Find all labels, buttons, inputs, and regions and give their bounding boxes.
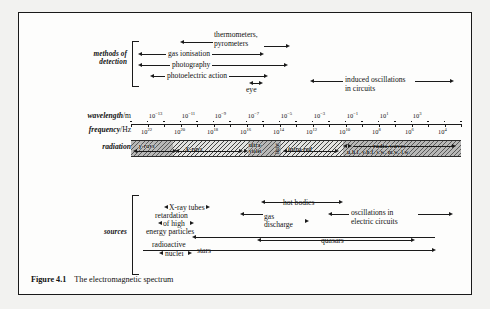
sources-bracket	[132, 195, 139, 275]
wavelength-tick	[460, 121, 462, 123]
gamma-left-arrow	[133, 149, 137, 153]
wavelength-tick-label: 101	[380, 111, 389, 119]
infrared-right-arrow	[335, 149, 339, 153]
gas-discharge-left-line	[243, 214, 263, 215]
spectrum-band: γ-rays X-rays ultra- violet light infra-…	[131, 140, 461, 157]
hot-bodies-left-arrow	[261, 200, 265, 204]
wavelength-tick	[213, 121, 215, 123]
frequency-tick	[329, 124, 330, 127]
oscillations-left-arrow	[328, 212, 332, 216]
wavelength-tick	[196, 121, 198, 123]
frequency-tick-label: 1016	[240, 127, 251, 135]
figure-panel: methods of detection thermometers, pyrom…	[18, 12, 472, 295]
induced-left-arrow	[310, 79, 314, 83]
wavelength-tick-label: 10−7	[248, 111, 259, 119]
wavelength-tick	[345, 121, 347, 123]
thermometers-left-arrow	[180, 40, 184, 44]
radio-left-arrow-2	[348, 144, 352, 148]
thermometers-right-arrow	[286, 44, 290, 48]
quasars-right-arrow	[411, 238, 415, 242]
nuclei-right-arrow	[188, 251, 192, 255]
detection-item-gas-ionisation: gas ionisation	[166, 49, 212, 58]
photoelectric-right-arrow	[264, 74, 268, 78]
gas-discharge-right-arrow	[305, 219, 309, 223]
wavelength-tick	[328, 121, 330, 123]
frequency-tick-label: 1018	[207, 127, 218, 135]
wavelength-tick	[312, 121, 314, 123]
xray-tubes-left-arrow	[164, 205, 168, 209]
wavelength-tick	[130, 121, 132, 123]
frequency-tick	[164, 124, 165, 127]
nuclei-left-arrow	[159, 251, 163, 255]
frequency-tick	[131, 124, 132, 127]
frequency-axis-label: frequency/Hz	[55, 125, 131, 134]
frequency-tick-label: 106	[405, 127, 414, 135]
photography-right-arrow	[284, 63, 288, 67]
wavelength-tick	[147, 121, 149, 123]
wavelength-tick	[378, 121, 380, 123]
frequency-tick	[395, 124, 396, 127]
detection-item-photography: photography	[170, 60, 212, 69]
frequency-tick	[197, 124, 198, 127]
radioactive-pointer-arrow	[192, 235, 196, 239]
frequency-tick-label: 1010	[339, 127, 350, 135]
wavelength-tick	[262, 121, 264, 123]
radio-right-arrow	[452, 144, 456, 148]
sources-item-radioactive: radioactive	[152, 240, 186, 249]
wavelength-tick-label: 10−5	[281, 111, 292, 119]
gas-discharge-left-arrow	[240, 212, 244, 216]
sources-item-energy-particles: energy particles	[146, 227, 194, 236]
wavelength-tick-label: 10−9	[215, 111, 226, 119]
frequency-tick	[230, 124, 231, 127]
sources-item-discharge: discharge	[264, 220, 293, 229]
stars-line	[143, 250, 433, 251]
eye-left-arrow	[249, 81, 253, 85]
wavelength-tick-label: 10−11	[182, 111, 195, 119]
wavelength-tick	[394, 121, 396, 123]
wavelength-tick	[411, 121, 413, 123]
induced-right-arrow	[450, 79, 454, 83]
oscillations-right-arrow	[449, 212, 453, 216]
frequency-tick	[263, 124, 264, 127]
caption-text: The electromagnetic spectrum	[74, 275, 173, 284]
detection-item-photoelectric: photoelectric action	[165, 71, 229, 80]
photography-line	[141, 65, 285, 66]
wavelength-tick	[180, 121, 182, 123]
xrays-right-arrow	[239, 149, 243, 153]
wavelength-axis-label: wavelength/m	[55, 111, 131, 120]
wavelength-tick	[427, 121, 429, 123]
xrays-range-line	[178, 151, 240, 152]
frequency-tick	[362, 124, 363, 127]
detection-item-thermometers: thermometers, pyrometers	[214, 31, 258, 48]
quasars-left-arrow	[257, 238, 261, 242]
gas-ionisation-left-arrow	[138, 52, 142, 56]
eye-right-arrow	[259, 81, 263, 85]
photoelectric-left-arrow	[150, 74, 154, 78]
quasars-line	[260, 240, 412, 241]
caption-number: Figure 4.1	[31, 275, 66, 284]
hot-bodies-right-arrow	[339, 200, 343, 204]
radiation-row-label: radiation	[55, 142, 131, 151]
wavelength-tick	[295, 121, 297, 123]
sources-item-oscillations: oscillations in electric circuits	[351, 209, 398, 226]
methods-of-detection-label: methods of detection	[65, 50, 127, 66]
wavelength-tick	[163, 121, 165, 123]
frequency-tick-label: 1014	[273, 127, 284, 135]
oscillations-left-line	[331, 214, 349, 215]
xray-tubes-right-arrow	[206, 205, 210, 209]
frequency-tick-label: 1012	[306, 127, 317, 135]
gamma-range-line	[136, 151, 174, 152]
uv-left-arrow	[244, 149, 248, 153]
frequency-tick-label: 108	[372, 127, 381, 135]
induced-right-line	[415, 81, 451, 82]
frequency-tick-label: 1020	[174, 127, 185, 135]
detection-item-eye: eye	[246, 85, 257, 94]
band-label-gamma: γ-rays	[139, 142, 155, 149]
thermometers-left-line	[183, 42, 213, 43]
frequency-tick-label: 1022	[141, 127, 152, 135]
wavelength-tick-label: 10−1	[347, 111, 358, 119]
of-high-right-arrow	[190, 221, 194, 225]
band-label-radiowaves: radio waves	[373, 142, 405, 149]
frequency-tick-label: 104	[438, 127, 447, 135]
of-high-left-arrow	[158, 221, 162, 225]
